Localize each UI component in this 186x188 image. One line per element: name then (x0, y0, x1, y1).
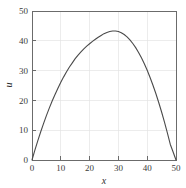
x-tick-label-10: 10 (56, 163, 66, 173)
x-tick-label-30: 30 (114, 163, 124, 173)
y-axis-ticks (32, 11, 36, 160)
y-tick-label-40: 40 (19, 36, 29, 46)
x-tick-labels: 0 10 20 30 40 50 (30, 163, 181, 173)
y-tick-label-0: 0 (24, 155, 29, 165)
chart-figure: 0 10 20 30 40 50 0 10 20 30 40 50 x u (0, 0, 186, 188)
x-tick-label-40: 40 (143, 163, 153, 173)
x-axis-title: x (101, 175, 107, 186)
x-tick-label-20: 20 (85, 163, 95, 173)
x-tick-label-50: 50 (172, 163, 182, 173)
data-series-line (32, 31, 176, 160)
y-tick-label-30: 30 (19, 66, 29, 76)
y-tick-labels: 0 10 20 30 40 50 (19, 6, 29, 165)
y-tick-label-50: 50 (19, 6, 29, 16)
y-tick-label-20: 20 (19, 96, 29, 106)
x-axis-ticks (32, 156, 176, 160)
y-axis-title: u (3, 83, 14, 88)
y-tick-label-10: 10 (19, 125, 29, 135)
x-tick-label-0: 0 (30, 163, 35, 173)
plot-canvas: 0 10 20 30 40 50 0 10 20 30 40 50 x u (0, 0, 186, 188)
